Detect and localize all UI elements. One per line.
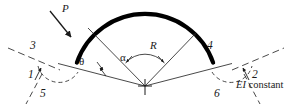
theta-arrow-upper	[97, 62, 103, 70]
note-ei-constant: EI constant	[236, 79, 284, 90]
alpha-angle-arc	[126, 54, 165, 63]
load-arrow-P	[50, 11, 71, 37]
label-node-6: 6	[214, 88, 220, 100]
alpha-arrow-left	[127, 56, 133, 62]
left-chord-line	[58, 64, 145, 87]
radius-line-to-load	[88, 28, 145, 86]
label-radius-R: R	[150, 40, 157, 51]
label-node-5: 5	[40, 88, 46, 100]
label-node-1: 1	[28, 69, 34, 81]
alpha-arrow-right	[158, 56, 164, 62]
arch-member	[77, 14, 213, 63]
right-axis-dashed-line	[232, 48, 284, 70]
label-load-P: P	[62, 3, 69, 14]
label-angle-theta: θ	[79, 56, 84, 67]
arch-diagram-figure: P R θ α 3 1 5 4 2 6 EI constant	[0, 0, 306, 111]
note-constant-word: constant	[246, 79, 284, 90]
left-dof-dashed-arc	[38, 66, 78, 82]
label-node-4: 4	[207, 40, 213, 52]
right-chord-line	[145, 64, 232, 87]
label-node-3: 3	[30, 40, 36, 52]
label-angle-alpha: α	[120, 52, 126, 63]
note-ei-symbol: EI	[236, 79, 246, 90]
